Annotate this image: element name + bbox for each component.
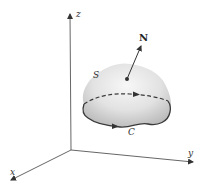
surface-label: S bbox=[93, 70, 99, 80]
y-axis bbox=[71, 150, 193, 162]
z-axis-label: z bbox=[75, 9, 81, 19]
normal-label: N bbox=[139, 32, 148, 43]
x-axis-label: x bbox=[10, 167, 15, 177]
x-axis bbox=[11, 150, 71, 180]
y-axis-label: y bbox=[187, 148, 194, 158]
curve-label: C bbox=[128, 127, 135, 137]
stokes-theorem-diagram: z y x N S C bbox=[0, 0, 203, 188]
z-axis bbox=[70, 14, 71, 150]
